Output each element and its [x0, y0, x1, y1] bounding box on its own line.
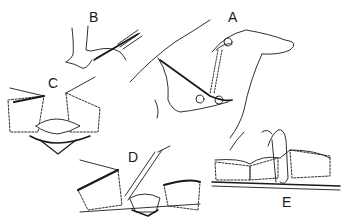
illustration-drawing — [0, 0, 347, 223]
panel-b-drawing — [66, 26, 142, 68]
panel-d-drawing — [78, 146, 200, 216]
panel-a-drawing — [130, 20, 294, 138]
surgical-illustration: B A C D E — [0, 0, 347, 223]
panel-label-a: A — [228, 10, 237, 24]
panel-label-c: C — [48, 76, 58, 90]
panel-e-drawing — [212, 130, 340, 190]
panel-label-e: E — [282, 195, 291, 209]
panel-label-d: D — [128, 150, 138, 164]
panel-label-b: B — [89, 10, 98, 24]
